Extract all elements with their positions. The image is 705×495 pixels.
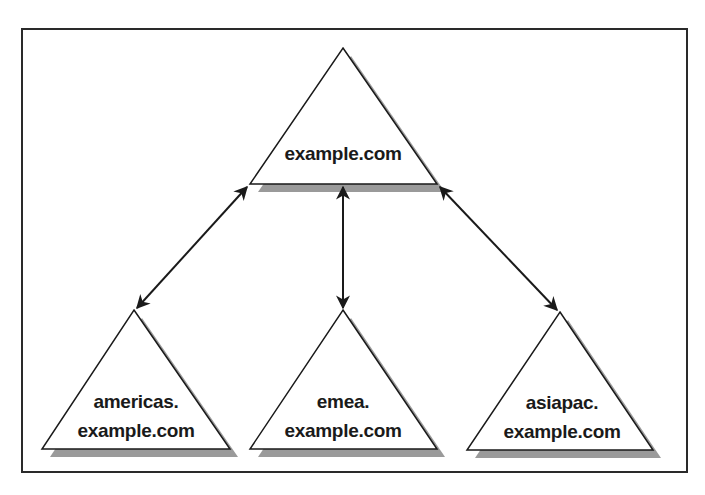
americas-label-line2: example.com xyxy=(77,420,194,441)
asiapac-label-line1: asiapac. xyxy=(526,392,599,413)
emea-label-line2: example.com xyxy=(284,420,401,441)
americas-label-line1: americas. xyxy=(94,391,179,412)
emea-label-line1: emea. xyxy=(317,391,369,412)
asiapac-label-line2: example.com xyxy=(503,421,620,442)
root-domain-label: example.com xyxy=(284,143,401,164)
domain-tree-diagram: example.com americas. example.com emea. … xyxy=(0,0,705,495)
